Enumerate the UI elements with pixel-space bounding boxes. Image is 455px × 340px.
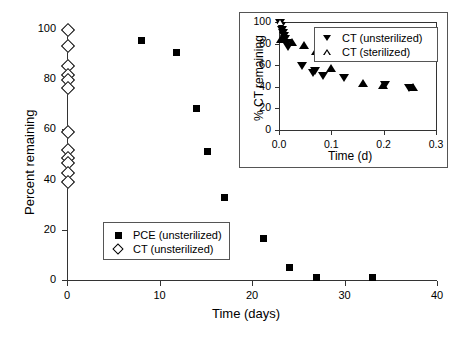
inset-x-tick (436, 131, 437, 135)
inset-x-tick (331, 131, 332, 135)
main-x-tick-label: 40 (431, 289, 443, 301)
main-y-tick-label: 100 (38, 22, 56, 34)
inset-legend-item-sterilized: CT (sterilized) (321, 46, 410, 58)
inset-x-tick-label: 0.3 (429, 138, 444, 150)
main-y-axis-title: Percent remaining (22, 110, 37, 216)
inset-legend: CT (unsterilized) CT (sterilized) (314, 27, 438, 62)
main-x-tick (345, 281, 346, 286)
main-point-pce (138, 37, 145, 44)
main-y-tick-label: 20 (44, 223, 56, 235)
main-x-axis-title: Time (days) (212, 306, 280, 321)
main-point-pce (221, 194, 228, 201)
main-point-pce (286, 264, 293, 271)
main-point-ct (61, 23, 75, 37)
inset-y-axis-title: % CT remaining (252, 35, 266, 121)
main-legend-label-ct: CT (unsterilized) (133, 243, 214, 255)
main-x-tick-label: 30 (338, 289, 350, 301)
inset-x-tick-label: 0.0 (272, 138, 287, 150)
main-point-pce (313, 274, 320, 281)
main-x-tick-label: 20 (246, 289, 258, 301)
inset-point-unsterilized (297, 62, 307, 70)
inset-point-sterilized (378, 64, 388, 89)
main-legend-label-pce: PCE (unsterilized) (133, 229, 222, 241)
main-y-tick (62, 230, 67, 231)
inset-y-tick-label: 100 (253, 15, 271, 27)
figure-canvas: 020406080100 010203040 Percent remaining… (0, 0, 455, 340)
inset-x-axis (279, 130, 437, 131)
inset-top-spine (279, 22, 437, 23)
main-legend-item-ct: CT (unsterilized) (112, 243, 214, 255)
main-point-ct (61, 175, 75, 189)
main-x-tick (160, 281, 161, 286)
inset-point-unsterilized (318, 72, 328, 80)
inset-legend-label-unsterilized: CT (unsterilized) (342, 32, 423, 44)
inset-point-sterilized (408, 66, 418, 91)
main-y-tick-label: 40 (44, 173, 56, 185)
inset-x-tick (279, 131, 280, 135)
main-y-tick-label: 80 (44, 72, 56, 84)
inset-y-tick (275, 44, 279, 45)
inset-y-tick (275, 65, 279, 66)
inset-point-sterilized (358, 62, 368, 87)
main-point-ct (61, 39, 75, 53)
main-point-ct (61, 125, 75, 139)
main-point-pce (260, 235, 267, 242)
inset-legend-item-unsterilized: CT (unsterilized) (321, 32, 423, 44)
inset-point-sterilized (276, 18, 286, 43)
inset-x-axis-title: Time (d) (328, 149, 372, 163)
main-x-tick (67, 281, 68, 286)
filled-square-icon (112, 232, 124, 239)
inset-x-tick (384, 131, 385, 135)
main-x-tick-label: 10 (153, 289, 165, 301)
main-legend: PCE (unsterilized) CT (unsterilized) (103, 222, 230, 260)
inset-legend-label-sterilized: CT (sterilized) (342, 46, 410, 58)
filled-triangle-down-icon (321, 35, 333, 41)
main-x-tick (252, 281, 253, 286)
inset-point-unsterilized (339, 74, 349, 82)
inset-point-sterilized (287, 21, 297, 46)
main-point-pce (369, 274, 376, 281)
main-legend-item-pce: PCE (unsterilized) (112, 229, 222, 241)
main-y-tick-label: 60 (44, 122, 56, 134)
inset-x-tick-label: 0.2 (376, 138, 391, 150)
main-point-pce (204, 148, 211, 155)
main-point-pce (173, 49, 180, 56)
open-triangle-up-icon (321, 49, 333, 55)
inset-panel: 020406080100 0.00.10.20.3 % CT remaining… (239, 12, 448, 168)
main-y-tick-label: 0 (50, 273, 56, 285)
inset-y-tick-label: 0 (265, 123, 271, 135)
inset-point-sterilized (299, 24, 309, 49)
main-x-tick-label: 0 (64, 289, 70, 301)
inset-y-tick (275, 108, 279, 109)
main-x-tick (437, 281, 438, 286)
inset-y-tick (275, 87, 279, 88)
open-diamond-icon (112, 245, 124, 253)
main-point-pce (193, 105, 200, 112)
